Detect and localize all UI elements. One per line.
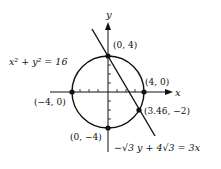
x-axis-label: x [175,87,181,98]
graph-diagram: y x x² + y² = 16 (0, 4) (4, 0) (−4, 0) (… [0,0,221,169]
graph-canvas: y x x² + y² = 16 (0, 4) (4, 0) (−4, 0) (… [0,0,221,169]
point-label-0-4: (0, 4) [113,40,137,50]
point-label-346-neg2: (3.46, −2) [144,106,190,116]
x-axis [50,89,173,95]
y-axis [105,22,111,152]
point-label-neg4-0: (−4, 0) [34,97,66,107]
point-label-4-0: (4, 0) [145,77,169,87]
point-label-0-neg4: (0, −4) [70,132,102,142]
circle-equation: x² + y² = 16 [9,56,67,67]
line-equation: −√3 y + 4√3 = 3x [114,142,201,153]
y-axis-label: y [105,9,112,20]
